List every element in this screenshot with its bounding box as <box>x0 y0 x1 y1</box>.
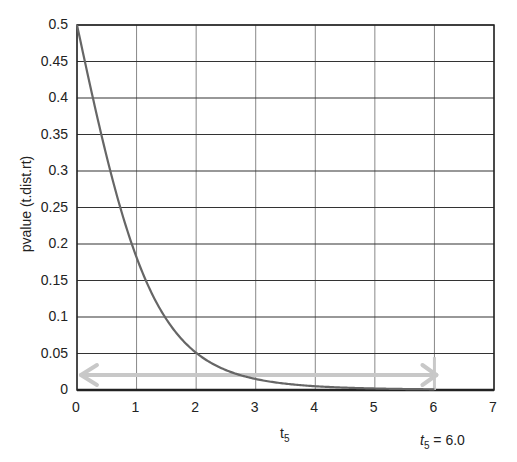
x-tick-label: 1 <box>132 399 140 415</box>
chart-canvas <box>0 0 517 462</box>
x-axis-label-sub: 5 <box>284 433 290 444</box>
y-tick-label: 0.15 <box>8 272 68 288</box>
range-arrow <box>81 357 436 390</box>
x-tick-label: 7 <box>489 399 497 415</box>
y-tick-label: 0.4 <box>8 89 68 105</box>
gridlines <box>77 25 494 390</box>
x-tick-label: 2 <box>191 399 199 415</box>
t-value-annotation: t5 = 6.0 <box>420 432 465 451</box>
x-tick-label: 6 <box>429 399 437 415</box>
y-tick-label: 0.5 <box>8 16 68 32</box>
x-axis-label: t5 <box>280 425 289 444</box>
x-tick-label: 5 <box>370 399 378 415</box>
x-tick-label: 0 <box>72 399 80 415</box>
y-axis-label: pvalue (t.dist.rt) <box>18 134 34 274</box>
annotation-value: = 6.0 <box>429 432 464 448</box>
y-tick-label: 0.25 <box>8 199 68 215</box>
x-tick-label: 4 <box>310 399 318 415</box>
y-tick-label: 0.35 <box>8 126 68 142</box>
y-tick-label: 0.1 <box>8 308 68 324</box>
y-tick-label: 0.45 <box>8 53 68 69</box>
y-tick-label: 0.05 <box>8 345 68 361</box>
y-tick-label: 0 <box>8 381 68 397</box>
y-tick-label: 0.2 <box>8 235 68 251</box>
y-tick-label: 0.3 <box>8 162 68 178</box>
x-tick-label: 3 <box>251 399 259 415</box>
